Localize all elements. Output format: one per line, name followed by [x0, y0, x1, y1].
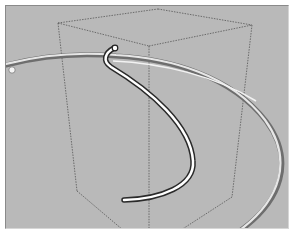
outer-arc-endpoint[interactable]	[9, 67, 15, 73]
outer-arc-tube[interactable]	[6, 54, 280, 229]
3d-viewport[interactable]	[5, 5, 289, 229]
scene-canvas[interactable]	[6, 6, 289, 229]
inner-hook-endpoint[interactable]	[112, 45, 118, 51]
outer-arc-tube-shadow	[6, 55, 282, 229]
